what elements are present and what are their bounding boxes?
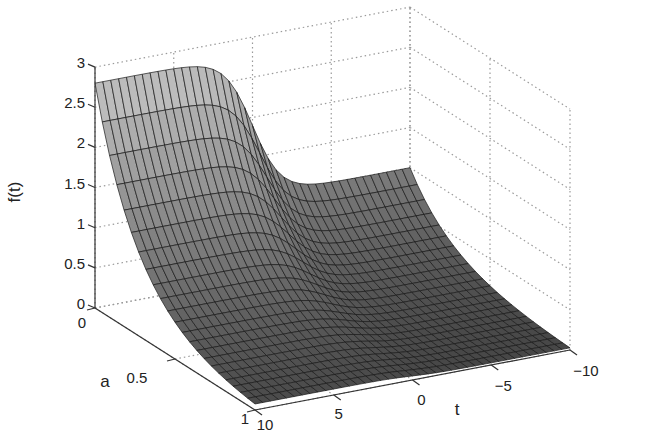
surface-plot: 00.511.522.5300.511050−5−10 f(t) a t [0, 0, 645, 445]
z-tick-label: 2 [77, 134, 85, 151]
a-tick-label: 0.5 [127, 369, 148, 386]
t-tick-label: 0 [417, 391, 425, 408]
a-tick-label: 1 [241, 410, 249, 427]
z-tick-label: 3 [77, 54, 85, 71]
a-tick-label: 0 [78, 314, 86, 331]
z-tick-label: 1 [77, 215, 85, 232]
t-tick-label: −10 [573, 362, 598, 379]
z-tick-label: 0.5 [64, 255, 85, 272]
z-axis-label: f(t) [5, 182, 24, 203]
t-tick-label: 5 [335, 405, 343, 422]
z-tick-label: 0 [77, 295, 85, 312]
t-axis-label: t [455, 400, 460, 419]
t-tick-label: −5 [495, 377, 512, 394]
t-tick-label: 10 [257, 416, 274, 433]
z-tick-label: 1.5 [64, 175, 85, 192]
z-tick-label: 2.5 [64, 94, 85, 111]
a-axis-label: a [100, 372, 110, 391]
